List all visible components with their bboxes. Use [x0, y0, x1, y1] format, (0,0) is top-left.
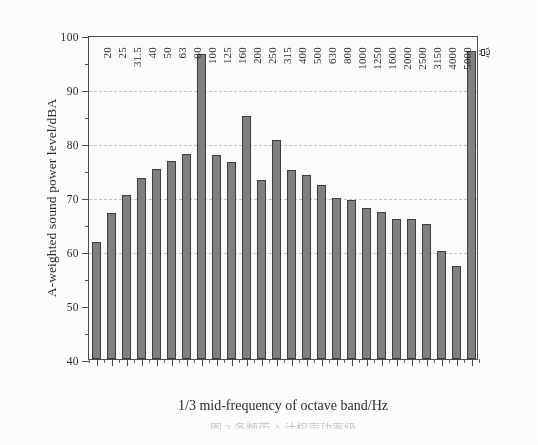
- x-tick-major: [352, 359, 353, 366]
- x-tick-label: 3150: [431, 47, 443, 70]
- y-axis-title: A-weighted sound power level/dBA: [44, 58, 60, 338]
- x-tick-minor: [314, 359, 315, 363]
- x-tick-minor: [119, 359, 120, 363]
- x-tick-minor: [104, 359, 105, 363]
- x-tick-major: [472, 359, 473, 366]
- bar: [452, 266, 462, 359]
- x-tick-minor: [434, 359, 435, 363]
- bar: [422, 224, 432, 359]
- x-tick-major: [157, 359, 158, 366]
- x-tick-label: 20: [101, 47, 113, 58]
- x-tick-minor: [389, 359, 390, 363]
- x-tick-label: 25: [116, 47, 128, 58]
- x-tick-minor: [479, 359, 480, 363]
- y-tick-label: 50: [67, 301, 79, 313]
- x-tick-label: 500: [311, 47, 323, 64]
- x-tick-label: 2000: [401, 47, 413, 70]
- x-tick-minor: [149, 359, 150, 363]
- x-axis-title: 1/3 mid-frequency of octave band/Hz: [88, 398, 478, 414]
- x-tick-major: [412, 359, 413, 366]
- bar: [272, 140, 282, 359]
- x-tick-label: 总: [476, 47, 492, 58]
- bar: [437, 251, 447, 359]
- bar: [182, 154, 192, 359]
- y-tick-label: 100: [61, 31, 79, 43]
- x-tick-label: 400: [296, 47, 308, 64]
- y-tick-major: [82, 91, 89, 92]
- y-tick-label: 80: [67, 139, 79, 151]
- y-tick-label: 40: [67, 355, 79, 367]
- bar: [407, 219, 417, 359]
- figure-caption: 图 3 各频带 A 计权声功率级: [88, 419, 478, 437]
- x-tick-minor: [284, 359, 285, 363]
- y-tick-major: [82, 145, 89, 146]
- x-tick-minor: [209, 359, 210, 363]
- x-tick-major: [247, 359, 248, 366]
- x-tick-label: 5000: [461, 47, 473, 70]
- x-tick-minor: [179, 359, 180, 363]
- x-tick-minor: [344, 359, 345, 363]
- x-tick-major: [97, 359, 98, 366]
- y-tick-label: 70: [67, 193, 79, 205]
- bar: [227, 162, 237, 359]
- x-tick-label: 2500: [416, 47, 428, 70]
- y-tick-major: [82, 307, 89, 308]
- x-tick-major: [397, 359, 398, 366]
- x-tick-label: 160: [236, 47, 248, 64]
- bar: [167, 161, 177, 359]
- bar: [197, 54, 207, 359]
- x-tick-minor: [164, 359, 165, 363]
- y-tick-major: [82, 199, 89, 200]
- x-tick-minor: [374, 359, 375, 363]
- x-tick-minor: [224, 359, 225, 363]
- bar: [467, 51, 477, 359]
- x-tick-minor: [329, 359, 330, 363]
- x-tick-label: 1600: [386, 47, 398, 70]
- x-tick-major: [307, 359, 308, 366]
- bar: [362, 208, 372, 359]
- x-tick-major: [232, 359, 233, 366]
- x-tick-minor: [134, 359, 135, 363]
- bar-series: [89, 37, 477, 359]
- x-tick-major: [382, 359, 383, 366]
- bar: [107, 213, 117, 359]
- x-tick-minor: [89, 359, 90, 363]
- x-tick-major: [337, 359, 338, 366]
- x-tick-major: [202, 359, 203, 366]
- x-tick-label: 63: [176, 47, 188, 58]
- bar: [257, 180, 267, 359]
- x-tick-label: 250: [266, 47, 278, 64]
- x-tick-major: [457, 359, 458, 366]
- x-tick-label: 1000: [356, 47, 368, 70]
- bar: [332, 198, 342, 359]
- x-tick-label: 1250: [371, 47, 383, 70]
- y-tick-major: [82, 37, 89, 38]
- bar: [137, 178, 147, 359]
- x-tick-major: [172, 359, 173, 366]
- bar: [122, 195, 132, 359]
- x-tick-major: [142, 359, 143, 366]
- bar: [377, 212, 387, 359]
- x-tick-minor: [194, 359, 195, 363]
- x-tick-label: 40: [146, 47, 158, 58]
- bar: [347, 200, 357, 359]
- x-tick-minor: [404, 359, 405, 363]
- y-tick-label: 60: [67, 247, 79, 259]
- x-tick-label: 315: [281, 47, 293, 64]
- x-tick-label: 630: [326, 47, 338, 64]
- x-tick-major: [187, 359, 188, 366]
- x-tick-label: 80: [191, 47, 203, 58]
- x-tick-major: [127, 359, 128, 366]
- x-tick-minor: [419, 359, 420, 363]
- x-tick-label: 31.5: [131, 47, 143, 67]
- x-tick-label: 800: [341, 47, 353, 64]
- x-tick-major: [262, 359, 263, 366]
- x-tick-minor: [239, 359, 240, 363]
- x-tick-major: [367, 359, 368, 366]
- x-tick-label: 200: [251, 47, 263, 64]
- x-tick-minor: [464, 359, 465, 363]
- x-tick-major: [112, 359, 113, 366]
- plot-area: 100908070605040 202531.54050638010012516…: [88, 36, 478, 360]
- x-tick-minor: [359, 359, 360, 363]
- x-tick-minor: [299, 359, 300, 363]
